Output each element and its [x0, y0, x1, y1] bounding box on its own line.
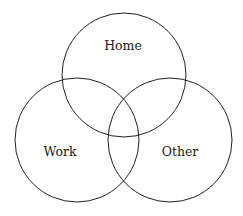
- circle-other: [108, 78, 232, 202]
- circle-work: [15, 78, 139, 202]
- circle-home: [62, 13, 186, 137]
- label-home: Home: [104, 38, 142, 53]
- venn-diagram: Home Work Other: [0, 0, 243, 216]
- label-work: Work: [43, 144, 77, 159]
- label-other: Other: [162, 144, 199, 159]
